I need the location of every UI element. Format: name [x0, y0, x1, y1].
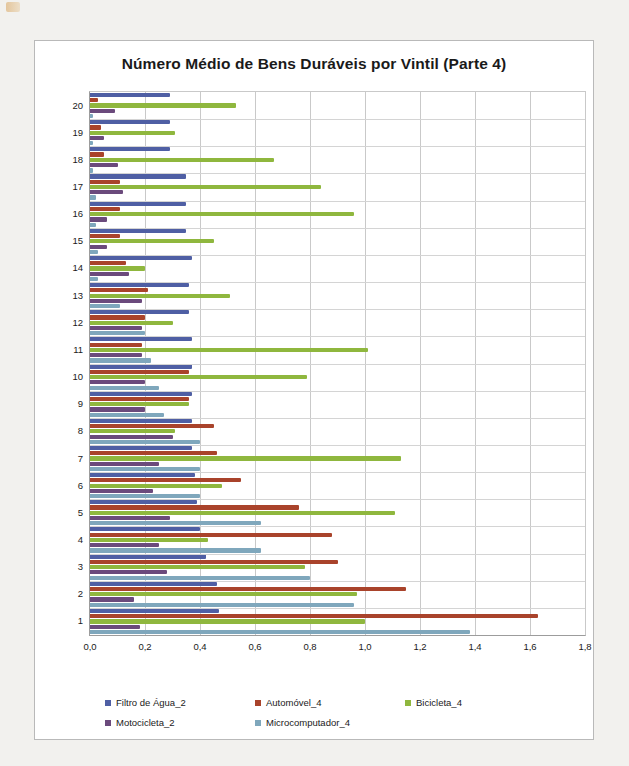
- bar-motocicleta-2-20: [90, 109, 115, 113]
- legend-item-bicicleta-4[interactable]: Bicicleta_4: [405, 697, 545, 708]
- y-axis-category-label: 20: [72, 101, 83, 111]
- bar-microcomputador-4-11: [90, 358, 151, 362]
- legend-label: Bicicleta_4: [416, 697, 462, 708]
- bar-autom-vel-4-8: [90, 424, 214, 428]
- bar-bicicleta-4-14: [90, 266, 145, 270]
- bar-microcomputador-4-4: [90, 548, 261, 552]
- chart-category-row: 3: [90, 554, 585, 581]
- legend-item-filtro-de-gua-2[interactable]: Filtro de Água_2: [105, 697, 255, 708]
- x-axis-tick-label: 1,8: [578, 641, 591, 652]
- bar-motocicleta-2-7: [90, 462, 159, 466]
- bar-motocicleta-2-12: [90, 326, 142, 330]
- y-gridline: [90, 336, 585, 337]
- legend-swatch-icon: [105, 700, 111, 706]
- bar-bicicleta-4-2: [90, 592, 357, 596]
- bar-autom-vel-4-20: [90, 98, 98, 102]
- y-gridline: [90, 201, 585, 202]
- chart-legend: Filtro de Água_2Automóvel_4Bicicleta_4Mo…: [105, 697, 545, 737]
- chart-category-row: 16: [90, 201, 585, 228]
- bar-filtro-de-gua-2-12: [90, 310, 189, 314]
- bar-autom-vel-4-1: [90, 614, 538, 618]
- bar-microcomputador-4-7: [90, 467, 200, 471]
- y-gridline: [90, 581, 585, 582]
- bar-microcomputador-4-17: [90, 195, 96, 199]
- bar-bicicleta-4-1: [90, 619, 365, 623]
- chart-category-row: 5: [90, 499, 585, 526]
- y-axis-category-label: 14: [72, 264, 83, 274]
- bar-microcomputador-4-13: [90, 304, 120, 308]
- y-gridline: [90, 146, 585, 147]
- bar-motocicleta-2-16: [90, 217, 107, 221]
- y-axis-category-label: 4: [78, 535, 83, 545]
- bar-motocicleta-2-14: [90, 272, 129, 276]
- y-axis-category-label: 13: [72, 291, 83, 301]
- bar-autom-vel-4-6: [90, 478, 241, 482]
- chart-category-row: 12: [90, 309, 585, 336]
- x-axis-tick-label: 0,6: [248, 641, 261, 652]
- bar-motocicleta-2-5: [90, 516, 170, 520]
- chart-category-row: 13: [90, 282, 585, 309]
- x-axis-tick-label: 0,4: [193, 641, 206, 652]
- bar-filtro-de-gua-2-8: [90, 419, 192, 423]
- bar-filtro-de-gua-2-7: [90, 446, 192, 450]
- bar-microcomputador-4-19: [90, 141, 93, 145]
- bar-microcomputador-4-6: [90, 494, 200, 498]
- y-gridline: [90, 554, 585, 555]
- y-axis-category-label: 1: [78, 617, 83, 627]
- legend-item-autom-vel-4[interactable]: Automóvel_4: [255, 697, 405, 708]
- bar-autom-vel-4-13: [90, 288, 148, 292]
- bar-filtro-de-gua-2-6: [90, 473, 195, 477]
- bar-filtro-de-gua-2-13: [90, 283, 189, 287]
- bar-autom-vel-4-10: [90, 370, 189, 374]
- bar-microcomputador-4-2: [90, 603, 354, 607]
- chart-category-row: 2: [90, 581, 585, 608]
- x-axis-tick-label: 1,2: [413, 641, 426, 652]
- bar-motocicleta-2-18: [90, 163, 118, 167]
- bar-motocicleta-2-2: [90, 597, 134, 601]
- y-gridline: [90, 499, 585, 500]
- y-gridline: [90, 364, 585, 365]
- bar-microcomputador-4-18: [90, 168, 93, 172]
- y-axis-category-label: 10: [72, 372, 83, 382]
- y-gridline: [90, 309, 585, 310]
- bar-motocicleta-2-6: [90, 489, 153, 493]
- chart-category-row: 19: [90, 119, 585, 146]
- bar-bicicleta-4-6: [90, 484, 222, 488]
- bar-filtro-de-gua-2-16: [90, 202, 186, 206]
- bar-bicicleta-4-3: [90, 565, 305, 569]
- bar-microcomputador-4-1: [90, 630, 470, 634]
- bar-motocicleta-2-11: [90, 353, 142, 357]
- bar-filtro-de-gua-2-14: [90, 256, 192, 260]
- y-gridline: [90, 119, 585, 120]
- bar-filtro-de-gua-2-3: [90, 554, 206, 558]
- chart-category-row: 1: [90, 608, 585, 635]
- legend-swatch-icon: [105, 720, 111, 726]
- legend-item-motocicleta-2[interactable]: Motocicleta_2: [105, 717, 255, 728]
- y-axis-category-label: 2: [78, 590, 83, 600]
- x-axis-tick-label: 0,8: [303, 641, 316, 652]
- chart-category-row: 9: [90, 391, 585, 418]
- chart-category-row: 14: [90, 255, 585, 282]
- y-gridline: [90, 418, 585, 419]
- bar-motocicleta-2-4: [90, 543, 159, 547]
- y-gridline: [90, 255, 585, 256]
- bar-filtro-de-gua-2-15: [90, 229, 186, 233]
- chart-category-row: 15: [90, 228, 585, 255]
- bar-filtro-de-gua-2-5: [90, 500, 197, 504]
- legend-label: Filtro de Água_2: [116, 697, 186, 708]
- bar-autom-vel-4-15: [90, 234, 120, 238]
- bar-bicicleta-4-7: [90, 456, 401, 460]
- x-axis-tick-label: 0,0: [83, 641, 96, 652]
- legend-item-microcomputador-4[interactable]: Microcomputador_4: [255, 717, 405, 728]
- bar-bicicleta-4-20: [90, 103, 236, 107]
- x-gridline: [585, 92, 586, 635]
- legend-label: Automóvel_4: [266, 697, 321, 708]
- bar-bicicleta-4-12: [90, 321, 173, 325]
- bar-microcomputador-4-20: [90, 114, 93, 118]
- y-axis-category-label: 15: [72, 237, 83, 247]
- chart-category-row: 11: [90, 336, 585, 363]
- chart-category-row: 6: [90, 472, 585, 499]
- y-gridline: [90, 228, 585, 229]
- x-axis-tick-label: 0,2: [138, 641, 151, 652]
- y-axis-category-label: 16: [72, 209, 83, 219]
